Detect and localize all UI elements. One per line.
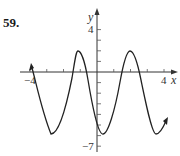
graph: −4 4 x y 4 −7 [0, 0, 180, 156]
x-tick-label-max: 4 [161, 74, 167, 86]
x-axis-label: x [170, 73, 177, 87]
curve-right-arrow-icon [163, 117, 168, 125]
y-tick-label-min: −7 [82, 140, 94, 152]
sinusoid-curve [32, 51, 167, 134]
curve-left-arrow-icon [29, 63, 34, 71]
y-tick-label-max: 4 [88, 23, 94, 35]
x-axis: −4 4 x [20, 69, 178, 87]
y-axis: y 4 −7 [82, 8, 101, 152]
y-axis-label: y [87, 10, 94, 24]
y-axis-arrow-icon [95, 8, 100, 15]
